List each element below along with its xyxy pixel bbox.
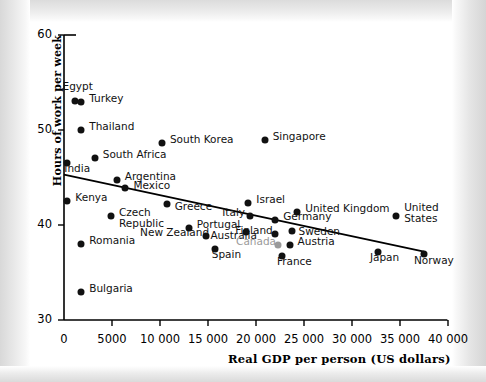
point-label-india: India	[64, 163, 90, 174]
point-label-egypt: Egypt	[63, 81, 93, 92]
point-label-new-zealand: New Zealand	[140, 227, 209, 238]
y-tick-label-40: 40	[26, 217, 52, 231]
data-point-south-africa[interactable]	[91, 154, 98, 161]
point-label-italy: Italy	[222, 207, 245, 218]
point-label-france: France	[277, 256, 312, 267]
point-label-canada: Canada	[236, 236, 276, 247]
data-point-kenya[interactable]	[64, 198, 71, 205]
x-tick-label-15000: 15 000	[188, 332, 228, 346]
x-tick-label-35000: 35 000	[380, 332, 420, 346]
y-tick-label-60: 60	[26, 27, 52, 41]
data-point-mexico[interactable]	[122, 184, 129, 191]
point-label-finland: Finland	[235, 225, 273, 236]
x-tick-label-25000: 25 000	[284, 332, 324, 346]
point-label-israel: Israel	[256, 194, 285, 205]
x-tick-label-40000: 40 000	[428, 332, 468, 346]
point-label-spain: Spain	[212, 249, 241, 260]
point-label-singapore: Singapore	[273, 131, 326, 142]
data-point-greece[interactable]	[163, 201, 170, 208]
data-point-israel[interactable]	[245, 200, 252, 207]
x-tick-label-5000: 5000	[97, 332, 126, 346]
data-point-bulgaria[interactable]	[78, 288, 85, 295]
data-point-south-korea[interactable]	[158, 140, 165, 147]
point-label-turkey: Turkey	[89, 93, 123, 104]
data-point-turkey[interactable]	[78, 99, 85, 106]
point-label-romania: Romania	[89, 235, 135, 246]
point-label-bulgaria: Bulgaria	[89, 283, 133, 294]
y-axis-title: Hours of work per week	[51, 35, 64, 186]
scatter-plot-figure: EgyptTurkeyThailandSouth KoreaSouth Afri…	[0, 0, 486, 382]
x-tick-label-10000: 10 000	[140, 332, 180, 346]
point-label-thailand: Thailand	[89, 121, 134, 132]
point-label-greece: Greece	[175, 201, 212, 212]
data-point-united-states[interactable]	[393, 212, 400, 219]
point-label-south-korea: South Korea	[170, 134, 234, 145]
point-label-kenya: Kenya	[75, 192, 107, 203]
point-label-mexico: Mexico	[133, 180, 170, 191]
data-point-germany[interactable]	[272, 217, 279, 224]
point-label-japan: Japan	[370, 252, 399, 263]
data-point-thailand[interactable]	[78, 127, 85, 134]
x-tick-label-0: 0	[60, 332, 67, 346]
axes-and-ticks	[0, 0, 486, 382]
data-point-romania[interactable]	[78, 241, 85, 248]
x-axis-title: Real GDP per person (US dollars)	[228, 352, 451, 366]
data-point-italy[interactable]	[247, 213, 254, 220]
point-label-germany: Germany	[283, 211, 331, 222]
data-point-czech-republic[interactable]	[108, 212, 115, 219]
x-tick-label-20000: 20 000	[236, 332, 276, 346]
data-point-singapore[interactable]	[261, 137, 268, 144]
point-label-united-states: United States	[404, 202, 450, 225]
y-tick-label-50: 50	[26, 122, 52, 136]
x-tick-label-30000: 30 000	[332, 332, 372, 346]
data-point-argentina[interactable]	[113, 177, 120, 184]
y-tick-label-30: 30	[26, 312, 52, 326]
point-label-south-africa: South Africa	[103, 149, 167, 160]
data-point-sweden[interactable]	[288, 227, 295, 234]
point-label-norway: Norway	[414, 255, 454, 266]
point-label-austria: Austria	[298, 236, 335, 247]
data-point-austria[interactable]	[286, 241, 293, 248]
